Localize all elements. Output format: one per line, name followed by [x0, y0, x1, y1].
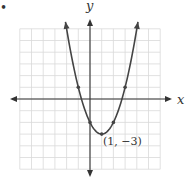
data-point	[77, 86, 81, 90]
data-point	[123, 86, 127, 90]
curve-arrow-left-icon	[64, 22, 70, 29]
arrow-down-icon	[87, 170, 93, 177]
data-point	[112, 121, 116, 125]
y-axis-label: y	[85, 0, 94, 13]
bullet-marker: •	[0, 1, 7, 15]
data-point	[88, 121, 92, 125]
axes	[10, 19, 172, 177]
x-axis-label: x	[177, 92, 185, 107]
parabola-graph: • y x (1, −3)	[0, 0, 185, 180]
arrow-up-icon	[87, 19, 93, 26]
arrow-right-icon	[165, 96, 172, 102]
curve-arrow-right-icon	[134, 22, 140, 29]
vertex-label: (1, −3)	[103, 135, 142, 148]
arrow-left-icon	[10, 96, 17, 102]
